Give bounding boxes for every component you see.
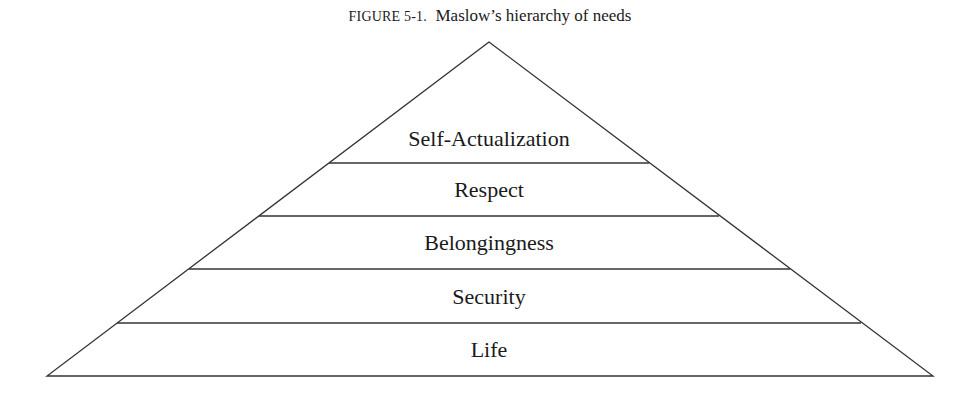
tier-security: Security [452, 284, 525, 309]
pyramid-outline [47, 42, 933, 376]
tier-respect: Respect [454, 177, 524, 202]
tier-self-actualization: Self-Actualization [408, 126, 569, 151]
tier-life: Life [471, 337, 508, 362]
tier-belongingness: Belongingness [424, 230, 554, 255]
pyramid-diagram: Self-Actualization Respect Belongingness… [0, 0, 980, 405]
